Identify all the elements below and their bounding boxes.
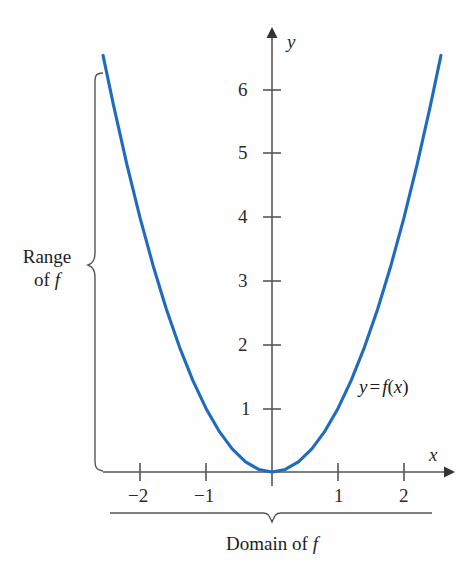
x-tick-label-minus1: −1 — [194, 486, 214, 505]
curve-label-x: x — [394, 376, 402, 397]
x-tick-label-2: 2 — [399, 486, 409, 505]
x-tick-label-minus2: −2 — [128, 486, 148, 505]
x-axis-label: x — [429, 445, 437, 464]
domain-annotation-f: f — [313, 533, 318, 554]
range-annotation: Range of f — [8, 247, 86, 289]
y-tick-label-6: 6 — [238, 80, 248, 99]
range-annotation-f: f — [55, 269, 60, 290]
range-annotation-line1: Range — [8, 247, 86, 266]
y-axis — [267, 27, 278, 486]
range-brace — [88, 73, 103, 471]
y-axis-label: y — [287, 32, 295, 51]
curve-label-equals: = — [369, 376, 380, 397]
y-tick-label-3: 3 — [238, 271, 248, 290]
x-tick-label-1: 1 — [334, 486, 344, 505]
y-tick-label-2: 2 — [238, 335, 248, 354]
y-tick-label-5: 5 — [238, 143, 248, 162]
range-annotation-of: of — [34, 269, 50, 290]
domain-brace — [110, 513, 432, 522]
domain-annotation-prefix: Domain of — [226, 533, 308, 554]
curve-label-close-paren: ) — [402, 376, 408, 397]
domain-annotation: Domain of f — [152, 534, 392, 553]
range-annotation-line2: of f — [8, 270, 86, 289]
y-tick-label-4: 4 — [238, 207, 248, 226]
curve-label-y: y — [359, 376, 367, 397]
curve-equation-label: y=f(x) — [359, 377, 409, 396]
y-tick-label-1: 1 — [241, 399, 251, 418]
